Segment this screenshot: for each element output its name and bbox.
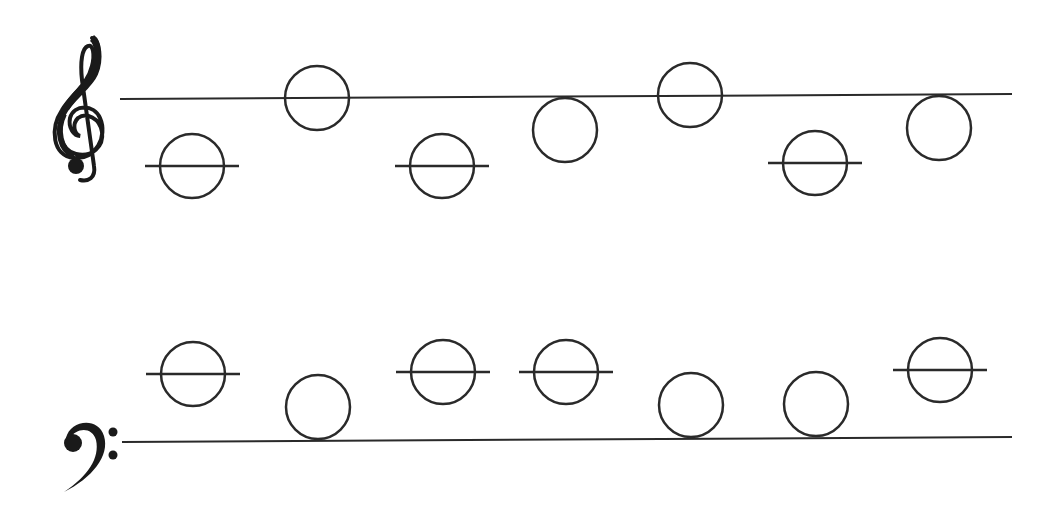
bass-staff <box>122 338 1012 442</box>
bass-whole-note-3 <box>396 340 490 404</box>
bass-whole-note-1 <box>146 342 240 406</box>
treble-whole-note-4 <box>533 98 597 162</box>
note-head-icon <box>533 98 597 162</box>
treble-whole-note-7 <box>907 96 971 160</box>
treble-clef-icon <box>55 38 103 180</box>
bass-whole-note-2 <box>286 375 350 439</box>
treble-whole-note-3 <box>395 134 489 198</box>
bass-clef-icon <box>64 423 118 492</box>
bass-whole-note-6 <box>784 372 848 436</box>
bass-whole-note-7 <box>893 338 987 402</box>
note-head-icon <box>286 375 350 439</box>
treble-whole-note-1 <box>145 134 239 198</box>
bass-whole-note-5 <box>659 373 723 437</box>
bass-staff-line <box>122 437 1012 442</box>
music-notation-diagram <box>0 0 1063 513</box>
note-head-icon <box>907 96 971 160</box>
treble-staff <box>120 63 1012 198</box>
note-head-icon <box>659 373 723 437</box>
note-head-icon <box>784 372 848 436</box>
treble-whole-note-6 <box>768 131 862 195</box>
bass-whole-note-4 <box>519 340 613 404</box>
